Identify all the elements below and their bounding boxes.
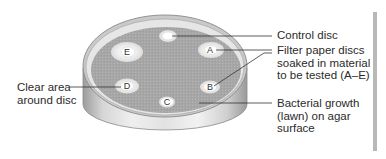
side-divider-bar bbox=[373, 12, 377, 151]
disc-e-letter: E bbox=[124, 47, 130, 57]
label-bacterial-growth: Bacterial growth (lawn) on agar surface bbox=[277, 97, 359, 135]
disc-c-letter: C bbox=[164, 97, 171, 107]
label-control-disc-text: Control disc bbox=[277, 29, 338, 41]
disc-b: B bbox=[200, 81, 220, 94]
label-clear-line-1: Clear area bbox=[17, 81, 76, 94]
disc-c: C bbox=[159, 97, 175, 108]
disc-d-letter: D bbox=[124, 81, 131, 91]
disc-d: D bbox=[115, 79, 139, 94]
label-filter-line-1: Filter paper discs bbox=[277, 44, 370, 57]
petri-dish-figure: E A D B C Con bbox=[0, 0, 386, 159]
label-clear-line-2: around disc bbox=[17, 94, 76, 107]
disc-e: E bbox=[111, 42, 143, 62]
disc-b-letter: B bbox=[207, 82, 213, 92]
label-filter-line-2: soaked in material bbox=[277, 57, 370, 70]
label-growth-line-1: Bacterial growth bbox=[277, 97, 359, 110]
label-control-disc: Control disc bbox=[277, 29, 338, 42]
label-growth-line-2: (lawn) on agar bbox=[277, 110, 359, 123]
disc-a-letter: A bbox=[207, 45, 213, 55]
label-growth-line-3: surface bbox=[277, 122, 359, 135]
label-filter-line-3: to be tested (A–E) bbox=[277, 69, 370, 82]
label-filter-paper-discs: Filter paper discs soaked in material to… bbox=[277, 44, 370, 82]
label-clear-area: Clear area around disc bbox=[17, 81, 76, 106]
